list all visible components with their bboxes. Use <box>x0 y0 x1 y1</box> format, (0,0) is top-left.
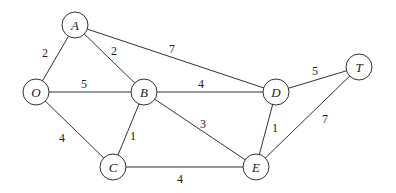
edge-weight-label: 4 <box>59 131 65 145</box>
edge-weight-label: 4 <box>198 77 204 91</box>
edge-weight-label: 1 <box>272 121 278 135</box>
edge-weight-label: 4 <box>177 172 183 186</box>
node-label: D <box>270 85 281 100</box>
edge-weight-label: 7 <box>169 42 175 56</box>
node-o: O <box>23 79 49 105</box>
node-label: T <box>355 60 363 75</box>
edges-layer <box>36 25 359 167</box>
edge-o-c <box>36 92 113 167</box>
node-b: B <box>131 79 157 105</box>
edge-weight-label: 3 <box>200 117 206 131</box>
node-label: B <box>140 85 148 100</box>
edge-weight-label: 2 <box>42 46 48 60</box>
node-label: O <box>31 85 41 100</box>
weights-layer: 227544134157 <box>42 42 328 186</box>
edge-a-d <box>75 25 276 92</box>
node-c: C <box>100 154 126 180</box>
graph-diagram: 227544134157 AOBCDTE <box>0 0 396 193</box>
edge-weight-label: 5 <box>81 77 87 91</box>
edge-weight-label: 7 <box>322 112 328 126</box>
node-label: A <box>70 18 79 33</box>
node-a: A <box>62 12 88 38</box>
node-d: D <box>263 79 289 105</box>
node-e: E <box>243 154 269 180</box>
node-label: E <box>251 160 260 175</box>
edge-weight-label: 1 <box>130 129 136 143</box>
edge-weight-label: 2 <box>111 44 117 58</box>
node-t: T <box>346 54 372 80</box>
nodes-layer: AOBCDTE <box>23 12 372 180</box>
edge-weight-label: 5 <box>312 64 318 78</box>
node-label: C <box>109 160 118 175</box>
